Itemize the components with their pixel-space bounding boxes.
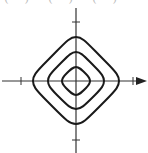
x-axis-arrowhead-icon	[136, 77, 147, 85]
x-axis	[2, 77, 147, 85]
contour-diagram	[0, 0, 148, 153]
